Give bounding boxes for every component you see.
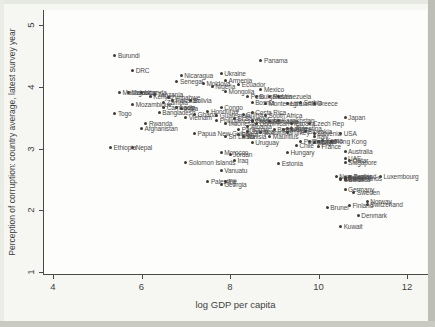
scatter-point-marker — [118, 91, 121, 94]
scatter-point-marker — [184, 161, 187, 164]
scatter-point-marker — [344, 188, 347, 191]
scatter-point-marker — [313, 132, 316, 135]
scatter-point-marker — [220, 72, 223, 75]
scatter-point-marker — [295, 144, 298, 147]
scatter-point-label: Canada — [348, 176, 370, 183]
scatter-point-marker — [229, 153, 232, 156]
scatter-point-label: Switzerland — [370, 201, 403, 208]
scatter-point-label: Nepal — [136, 144, 152, 151]
scatter-point-marker — [344, 116, 347, 119]
scatter-point-marker — [344, 150, 347, 153]
scatter-point-label: Georgia — [224, 181, 246, 188]
scatter-point-label: Bolivia — [193, 97, 211, 104]
photo-edge-top — [0, 0, 435, 4]
scatter-point-marker — [264, 102, 267, 105]
x-tick-label: 12 — [397, 281, 417, 292]
scatter-point-marker — [277, 162, 280, 165]
y-axis-label: Perception of corruption: country averag… — [7, 12, 19, 272]
scatter-point-marker — [313, 102, 316, 105]
scatter-point-label: Ethiopia — [114, 144, 137, 151]
scatter-point-marker — [167, 96, 170, 99]
x-axis-label: log GDP per capita — [43, 299, 428, 310]
scatter-point-label: Vanuatu — [224, 167, 247, 174]
scatter-point-marker — [339, 132, 342, 135]
scatter-point-label: Sri Lanka — [229, 133, 256, 140]
photo-edge-bottom — [0, 321, 435, 327]
scatter-point-label: Solomon Islands — [189, 159, 236, 166]
scatter-point-marker — [339, 178, 342, 181]
scatter-point-marker — [246, 95, 249, 98]
scatter-point-label: Hungary — [291, 149, 315, 156]
scatter-point-marker — [344, 161, 347, 164]
scatter-point-label: Brunei — [330, 204, 348, 211]
scatter-point-marker — [220, 183, 223, 186]
scatter-point-marker — [215, 114, 218, 117]
x-tick — [407, 275, 408, 279]
scatter-point-label: Japan — [348, 114, 365, 121]
x-tick-label: 10 — [309, 281, 329, 292]
scatter-point-label: Ukraine — [224, 70, 246, 77]
scatter-point-label: Senegal — [180, 78, 203, 85]
scatter-point-label: USA — [344, 130, 357, 137]
scatter-point-label: Finland — [352, 202, 373, 209]
scatter-point-label: Denmark — [361, 212, 387, 219]
scatter-point-label: Chile — [299, 142, 313, 149]
x-axis-line — [43, 274, 428, 275]
scatter-point-label: Luxembourg — [383, 173, 418, 180]
y-tick-label: 1 — [25, 265, 35, 279]
x-tick — [53, 275, 54, 279]
scatter-point-marker — [158, 111, 161, 114]
y-tick-label: 3 — [25, 142, 35, 156]
x-tick — [230, 275, 231, 279]
x-tick — [142, 275, 143, 279]
scatter-point-marker — [286, 102, 289, 105]
y-tick-label: 2 — [25, 203, 35, 217]
scatter-point-marker — [131, 69, 134, 72]
scatter-point-label: Panama — [264, 57, 288, 64]
scatter-point-marker — [220, 169, 223, 172]
scatter-point-marker — [339, 225, 342, 228]
scatter-point-label: Singapore — [348, 159, 377, 166]
x-tick — [319, 275, 320, 279]
scatter-point-marker — [140, 91, 143, 94]
photo-edge-left — [0, 0, 4, 327]
scatter-point-label: Vietnam — [189, 114, 212, 121]
y-tick-label: 4 — [25, 80, 35, 94]
scatter-point-label: DRC — [136, 67, 150, 74]
scatter-point-label: Mexico — [264, 86, 284, 93]
scatter-point-marker — [149, 95, 152, 98]
y-tick-label: 5 — [25, 18, 35, 32]
x-tick-label: 4 — [43, 281, 63, 292]
scatter-point-label: Iraq — [237, 157, 248, 164]
plot-area — [43, 10, 427, 274]
scatter-point-marker — [193, 132, 196, 135]
scatter-point-marker — [224, 90, 227, 93]
scatter-point-marker — [131, 103, 134, 106]
scatter-figure: BurundiDRCPanamaUkraineNicaraguaArmeniaS… — [0, 0, 435, 327]
scatter-point-label: Greece — [317, 100, 338, 107]
scatter-point-label: Uruguay — [255, 139, 279, 146]
scatter-point-label: Togo — [118, 110, 132, 117]
scatter-point-label: Afghanistan — [145, 125, 178, 132]
scatter-point-label: Burundi — [118, 52, 140, 59]
scatter-point-label: Kuwait — [344, 223, 363, 230]
scatter-point-marker — [180, 74, 183, 77]
scatter-point-label: Australia — [348, 148, 372, 155]
photo-edge-right — [428, 0, 435, 327]
scatter-point-label: France — [322, 143, 342, 150]
x-tick-label: 6 — [132, 281, 152, 292]
scatter-point-label: Estonia — [282, 160, 303, 167]
x-tick-label: 8 — [220, 281, 240, 292]
scatter-point-label: Sweden — [357, 189, 380, 196]
y-axis-line — [43, 10, 44, 275]
scatter-point-marker — [251, 141, 254, 144]
